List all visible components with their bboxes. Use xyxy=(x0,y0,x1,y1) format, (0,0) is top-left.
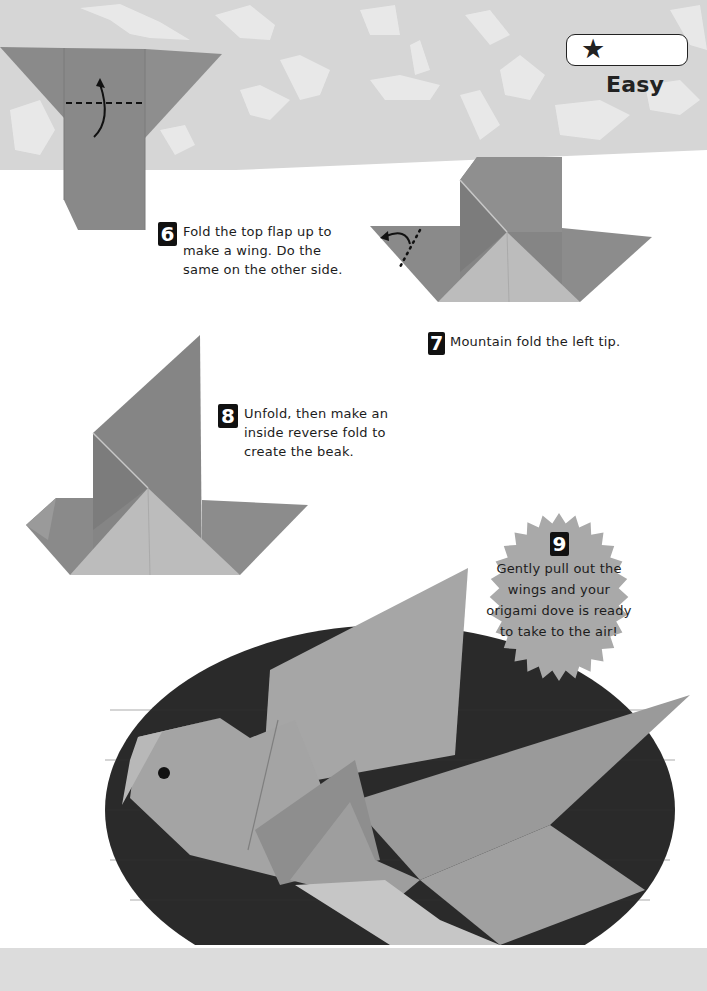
dove-eye xyxy=(158,767,170,779)
step7-diagram xyxy=(362,152,662,307)
text-line: to take to the air! xyxy=(480,621,638,642)
step-number-badge: 7 xyxy=(428,332,445,355)
difficulty-label: Easy xyxy=(606,72,664,97)
step-9-instruction: 9 Gently pull out the wings and your ori… xyxy=(474,512,644,682)
step-9-text: Gently pull out the wings and your origa… xyxy=(480,558,638,642)
step-7-text: Mountain fold the left tip. xyxy=(450,332,670,351)
text-line: make a wing. Do the xyxy=(183,241,353,260)
text-line: Fold the top flap up to xyxy=(183,222,353,241)
text-line: Unfold, then make an xyxy=(244,404,404,423)
text-line: same on the other side. xyxy=(183,260,353,279)
step-number-badge: 6 xyxy=(158,222,177,246)
step6-diagram xyxy=(0,40,240,230)
text-line: wings and your xyxy=(480,579,638,600)
footer-band xyxy=(0,948,707,991)
step-number-badge: 8 xyxy=(218,404,238,428)
text-line: inside reverse fold to xyxy=(244,423,404,442)
step-6-text: Fold the top flap up to make a wing. Do … xyxy=(183,222,353,279)
step-8-text: Unfold, then make an inside reverse fold… xyxy=(244,404,404,461)
text-line: origami dove is ready xyxy=(480,600,638,621)
step-number-badge: 9 xyxy=(550,532,569,556)
text-line: create the beak. xyxy=(244,442,404,461)
difficulty-rating-box: ★ xyxy=(566,34,688,66)
star-icon: ★ xyxy=(581,32,605,66)
text-line: Gently pull out the xyxy=(480,558,638,579)
